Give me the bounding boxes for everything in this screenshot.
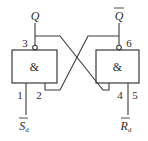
q-bar-label: Q	[115, 9, 124, 23]
pin-4-label: 4	[117, 89, 123, 101]
left-gate-symbol: &	[30, 60, 40, 74]
sr-latch-diagram: & Q 3 & Q 6 1 2 Sd 4 5 Rd	[0, 0, 148, 141]
r-d-label: Rd	[120, 119, 132, 134]
pin-5-label: 5	[132, 89, 138, 101]
right-gate-symbol: &	[113, 60, 123, 74]
pin-2-label: 2	[36, 89, 42, 101]
pin-3-label: 3	[22, 37, 28, 49]
left-inversion-bubble	[33, 45, 38, 50]
pin-1-label: 1	[17, 89, 23, 101]
s-d-label: Sd	[19, 119, 29, 134]
pin-6-label: 6	[126, 37, 132, 49]
q-label: Q	[31, 9, 40, 23]
right-inversion-bubble	[117, 45, 122, 50]
